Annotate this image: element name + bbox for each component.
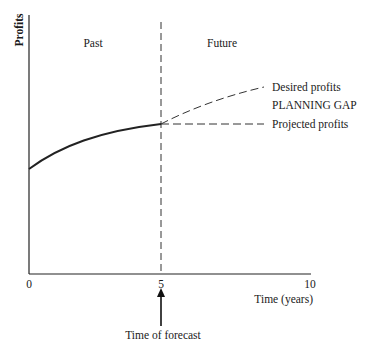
forecast-arrow-icon bbox=[157, 288, 165, 326]
x-tick-10: 10 bbox=[304, 278, 316, 290]
planning-gap-chart: Profits Past Future Desired profits PLAN… bbox=[0, 0, 372, 355]
planning-gap-label: PLANNING GAP bbox=[272, 99, 357, 111]
x-axis-label: Time (years) bbox=[254, 293, 313, 306]
y-axis-label: Profits bbox=[13, 13, 25, 47]
past-profits-curve bbox=[29, 124, 161, 169]
projected-profits-label: Projected profits bbox=[272, 118, 349, 131]
x-tick-5: 5 bbox=[158, 278, 164, 290]
past-region-label: Past bbox=[83, 37, 103, 49]
desired-profits-line bbox=[161, 87, 264, 124]
desired-profits-label: Desired profits bbox=[272, 81, 341, 94]
time-of-forecast-label: Time of forecast bbox=[125, 329, 201, 341]
x-tick-0: 0 bbox=[26, 278, 32, 290]
future-region-label: Future bbox=[207, 37, 237, 49]
